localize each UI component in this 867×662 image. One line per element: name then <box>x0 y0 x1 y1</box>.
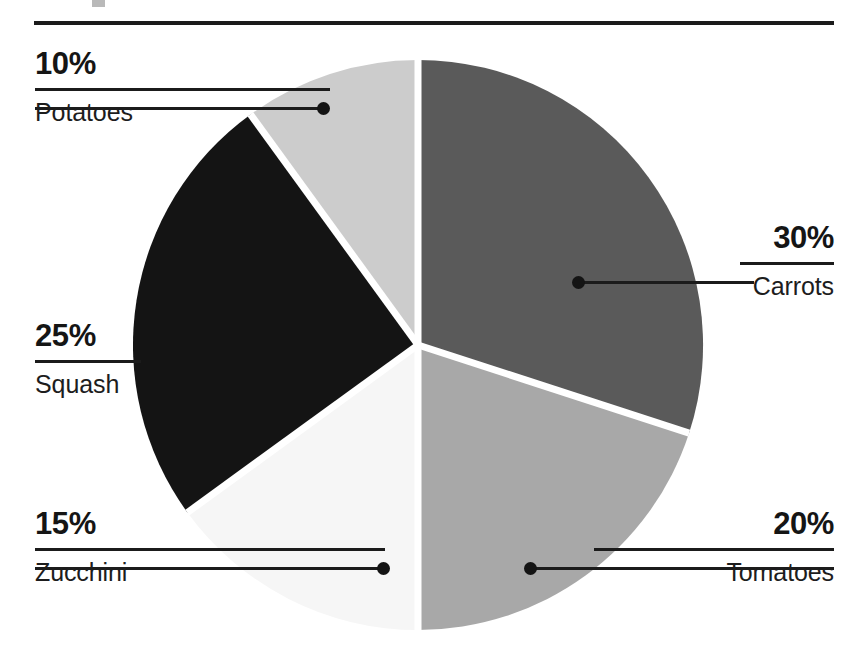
callout-tomatoes: 20% Tomatoes <box>594 508 834 585</box>
callout-percent-squash: 25% <box>35 320 141 351</box>
callout-percent-carrots: 30% <box>740 222 834 253</box>
callout-rule-carrots <box>740 262 834 265</box>
callout-potatoes: 10% Potatoes <box>35 48 330 125</box>
callout-zucchini: 15% Zucchini <box>35 508 385 585</box>
callout-rule-squash <box>35 360 141 363</box>
leader-dot-carrots <box>572 276 585 289</box>
callout-squash: 25% Squash <box>35 320 141 397</box>
callout-label-tomatoes: Tomatoes <box>594 560 834 585</box>
callout-label-zucchini: Zucchini <box>35 560 385 585</box>
callout-label-squash: Squash <box>35 372 141 397</box>
callout-rule-potatoes <box>35 88 330 91</box>
callout-percent-tomatoes: 20% <box>594 508 834 539</box>
pie-chart-page: 10% Potatoes 30% Carrots 25% Squash 15% … <box>0 0 867 662</box>
callout-rule-tomatoes <box>594 548 834 551</box>
callout-label-potatoes: Potatoes <box>35 100 330 125</box>
callout-label-carrots: Carrots <box>740 274 834 299</box>
callout-percent-zucchini: 15% <box>35 508 385 539</box>
leader-dot-tomatoes <box>524 562 537 575</box>
callout-rule-zucchini <box>35 548 385 551</box>
leader-line-carrots <box>578 281 754 284</box>
callout-carrots: 30% Carrots <box>740 222 834 299</box>
callout-percent-potatoes: 10% <box>35 48 330 79</box>
